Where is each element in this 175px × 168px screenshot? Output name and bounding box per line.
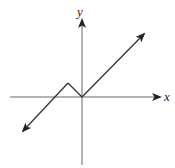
- curve-left-segment: [23, 83, 68, 131]
- y-axis-label: y: [75, 4, 83, 19]
- curve-middle-segment: [68, 83, 82, 97]
- x-axis-label: x: [163, 89, 170, 104]
- curve-right-segment: [82, 34, 144, 97]
- graph-canvas: x y: [0, 0, 175, 168]
